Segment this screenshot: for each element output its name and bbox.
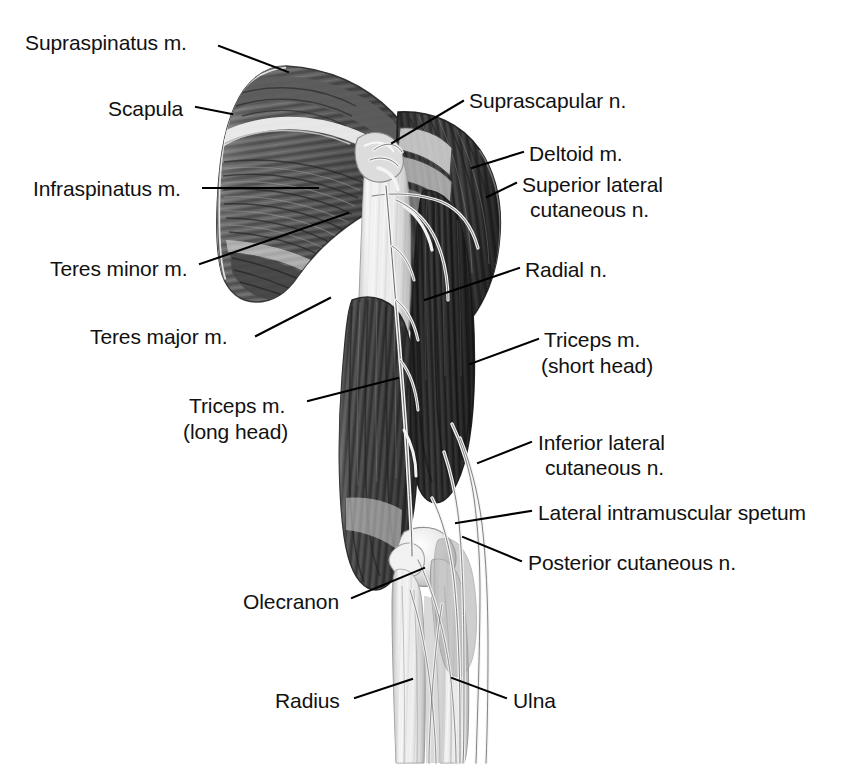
label-suprascapular: Suprascapular n. [469,88,626,113]
label-triceps-short-head-line2: (short head) [541,353,653,378]
label-scapula: Scapula [108,96,183,121]
label-ulna: Ulna [513,688,556,713]
label-supraspinatus: Supraspinatus m. [25,30,187,55]
label-posterior-cutaneous: Posterior cutaneous n. [528,550,736,575]
label-triceps-short-head-line1: Triceps m. [544,327,640,352]
label-teres-minor: Teres minor m. [50,256,187,281]
label-infraspinatus: Infraspinatus m. [33,176,181,201]
label-inf-lat-cutaneous-line1: Inferior lateral [538,430,665,455]
label-inf-lat-cutaneous-line2: cutaneous n. [545,455,664,480]
label-radial: Radial n. [525,257,607,282]
label-olecranon: Olecranon [243,589,339,614]
label-triceps-long-head-line1: Triceps m. [189,393,285,418]
label-deltoid: Deltoid m. [529,141,623,166]
anatomy-figure: Supraspinatus m.ScapulaInfraspinatus m.T… [0,0,852,765]
label-sup-lat-cutaneous-line2: cutaneous n. [530,197,649,222]
label-lateral-intramuscular: Lateral intramuscular spetum [538,500,806,525]
label-triceps-long-head-line2: (long head) [183,419,288,444]
label-sup-lat-cutaneous-line1: Superior lateral [522,172,663,197]
label-radius: Radius [275,688,340,713]
label-teres-major: Teres major m. [90,324,227,349]
